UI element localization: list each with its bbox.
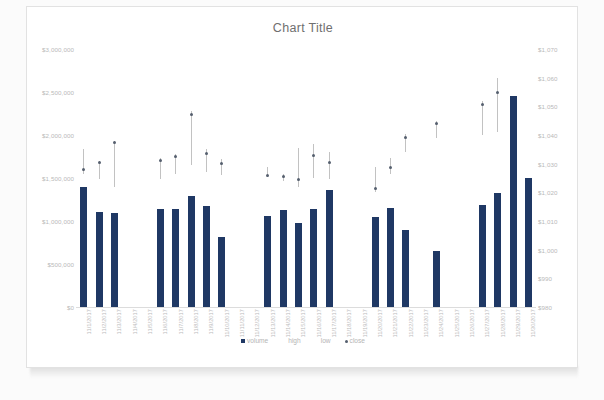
chart-column[interactable]	[264, 49, 271, 307]
legend-swatch-volume-icon	[241, 339, 245, 343]
volume-bar[interactable]	[172, 209, 179, 307]
x-axis-tick-label: 11/28/2017	[500, 309, 506, 338]
volume-bar[interactable]	[494, 193, 501, 307]
volume-bar[interactable]	[157, 209, 164, 307]
close-marker[interactable]	[266, 174, 269, 177]
volume-bar[interactable]	[188, 196, 195, 307]
volume-bar[interactable]	[402, 230, 409, 307]
legend-item-volume[interactable]: volume	[241, 337, 268, 344]
chart-column[interactable]	[157, 49, 164, 307]
y-axis-right-tick: $1,010	[538, 218, 558, 225]
volume-bar[interactable]	[264, 216, 271, 307]
high-low-line[interactable]	[329, 152, 330, 179]
close-marker[interactable]	[82, 168, 85, 171]
close-marker[interactable]	[374, 187, 377, 190]
chart-column[interactable]	[510, 49, 517, 307]
chart-column[interactable]	[341, 49, 348, 307]
close-marker[interactable]	[174, 155, 177, 158]
chart-column[interactable]	[387, 49, 394, 307]
volume-bar[interactable]	[372, 217, 379, 307]
chart-column[interactable]	[464, 49, 471, 307]
chart-column[interactable]	[479, 49, 486, 307]
close-marker[interactable]	[297, 178, 300, 181]
chart-column[interactable]	[326, 49, 333, 307]
chart-column[interactable]	[372, 49, 379, 307]
chart-column[interactable]	[249, 49, 256, 307]
volume-bar[interactable]	[280, 210, 287, 307]
volume-bar[interactable]	[80, 187, 87, 307]
chart-column[interactable]	[418, 49, 425, 307]
chart-column[interactable]	[295, 49, 302, 307]
volume-bar[interactable]	[326, 190, 333, 307]
close-marker[interactable]	[205, 152, 208, 155]
close-marker[interactable]	[312, 154, 315, 157]
chart-column[interactable]	[356, 49, 363, 307]
close-marker[interactable]	[159, 159, 162, 162]
close-marker[interactable]	[220, 162, 223, 165]
chart-column[interactable]	[218, 49, 225, 307]
y-axis-right-tick: $1,040	[538, 132, 558, 139]
x-axis-tick-label: 11/29/2017	[515, 309, 521, 338]
x-axis-tick-label: 11/1/2017	[86, 309, 92, 334]
volume-bar[interactable]	[295, 223, 302, 307]
x-axis-tick-label: 11/9/2017	[208, 309, 214, 334]
x-axis-tick-label: 11/22/2017	[408, 309, 414, 338]
high-low-line[interactable]	[497, 78, 498, 132]
close-marker[interactable]	[496, 91, 499, 94]
volume-bar[interactable]	[510, 96, 517, 307]
close-marker[interactable]	[282, 175, 285, 178]
legend-item-close[interactable]: close	[345, 337, 365, 344]
volume-bar[interactable]	[525, 178, 532, 307]
chart-column[interactable]	[126, 49, 133, 307]
x-axis-tick-label: 11/7/2017	[178, 309, 184, 334]
close-marker[interactable]	[328, 161, 331, 164]
chart-column[interactable]	[402, 49, 409, 307]
volume-bar[interactable]	[111, 213, 118, 307]
chart-column[interactable]	[142, 49, 149, 307]
chart-column[interactable]	[448, 49, 455, 307]
chart-column[interactable]	[234, 49, 241, 307]
close-marker[interactable]	[404, 136, 407, 139]
chart-column[interactable]	[96, 49, 103, 307]
chart-column[interactable]	[172, 49, 179, 307]
high-low-line[interactable]	[313, 144, 314, 178]
chart-column[interactable]	[310, 49, 317, 307]
volume-bar[interactable]	[96, 212, 103, 307]
close-marker[interactable]	[113, 141, 116, 144]
x-axis-tick-label: 11/23/2017	[423, 309, 429, 338]
chart-column[interactable]	[280, 49, 287, 307]
volume-bar[interactable]	[310, 209, 317, 307]
chart-column[interactable]	[494, 49, 501, 307]
plot-area[interactable]: 11/1/201711/2/201711/3/201711/4/201711/5…	[76, 49, 536, 307]
x-axis-tick-label: 11/16/2017	[316, 309, 322, 338]
close-marker[interactable]	[481, 103, 484, 106]
volume-bar[interactable]	[203, 206, 210, 307]
chart-column[interactable]	[525, 49, 532, 307]
legend-swatch-close-icon	[345, 340, 348, 343]
chart-legend[interactable]: volumehighlowclose	[27, 337, 579, 344]
close-marker[interactable]	[435, 122, 438, 125]
close-marker[interactable]	[98, 161, 101, 164]
chart-panel[interactable]: Chart Title $3,000,000$2,500,000$2,000,0…	[26, 6, 578, 368]
x-axis-tick-label: 11/17/2017	[331, 309, 337, 338]
x-axis-tick-label: 11/15/2017	[300, 309, 306, 338]
chart-column[interactable]	[111, 49, 118, 307]
chart-column[interactable]	[80, 49, 87, 307]
y-axis-right-tick: $1,020	[538, 189, 558, 196]
high-low-line[interactable]	[114, 141, 115, 187]
x-axis-tick-label: 11/24/2017	[438, 309, 444, 338]
volume-bar[interactable]	[218, 237, 225, 307]
chart-column[interactable]	[203, 49, 210, 307]
volume-bar[interactable]	[387, 208, 394, 307]
chart-column[interactable]	[188, 49, 195, 307]
high-low-line[interactable]	[191, 111, 192, 165]
volume-bar[interactable]	[479, 205, 486, 307]
x-axis-tick-label: 11/26/2017	[469, 309, 475, 338]
volume-bar[interactable]	[433, 251, 440, 307]
legend-item-high[interactable]: high	[282, 337, 300, 344]
x-axis-tick-label: 11/3/2017	[116, 309, 122, 334]
x-axis-tick-label: 11/30/2017	[530, 309, 536, 338]
chart-column[interactable]	[433, 49, 440, 307]
y-axis-left: $3,000,000$2,500,000$2,000,000$1,500,000…	[27, 49, 74, 307]
legend-item-low[interactable]: low	[315, 337, 331, 344]
